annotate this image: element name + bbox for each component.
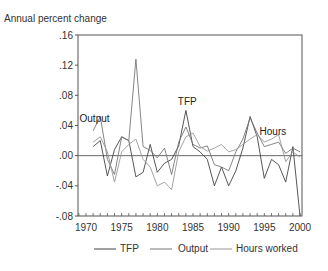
y-axis-label: Annual percent change <box>4 13 107 24</box>
legend-label: Hours worked <box>236 243 298 254</box>
x-tick-label: 1995 <box>253 222 276 233</box>
x-tick-label: 2000 <box>289 222 312 233</box>
series-hours-worked <box>93 133 300 190</box>
y-tick-label: .16 <box>59 30 73 41</box>
y-tick-label: .12 <box>59 60 73 71</box>
y-tick-label: .08 <box>59 90 73 101</box>
x-tick-label: 1985 <box>182 222 205 233</box>
legend: TFPOutputHours worked <box>94 243 298 254</box>
x-tick-label: 1990 <box>218 222 241 233</box>
y-tick-label: -.04 <box>56 180 74 191</box>
legend-label: Output <box>178 243 208 254</box>
annotation-hours: Hours <box>260 126 287 137</box>
line-chart: Annual percent change .16.12.08.04.00-.0… <box>0 0 328 271</box>
annotation-output: Output <box>80 113 110 124</box>
y-tick-label: .04 <box>59 120 73 131</box>
x-tick-label: 1980 <box>146 222 169 233</box>
legend-label: TFP <box>120 243 139 254</box>
x-tick-label: 1975 <box>111 222 134 233</box>
y-tick-label: -.08 <box>56 211 74 222</box>
annotation-tfp: TFP <box>178 96 197 107</box>
y-tick-label: .00 <box>59 150 73 161</box>
y-axis-ticks: .16.12.08.04.00-.04-.08 <box>56 30 78 222</box>
series-output <box>93 59 300 174</box>
x-tick-label: 1970 <box>75 222 98 233</box>
